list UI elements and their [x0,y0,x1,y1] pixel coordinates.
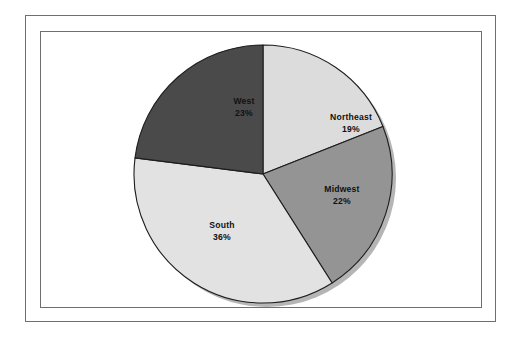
pie-chart-area: Northeast19%Midwest22%South36%West23% [41,32,481,307]
pie-label-name: South [209,220,234,230]
pie-slices-group [134,45,392,303]
pie-chart-svg: Northeast19%Midwest22%South36%West23% [41,32,481,307]
pie-label-name: West [233,96,254,106]
pie-label-south: South36% [209,220,234,242]
pie-label-percent: 19% [342,124,360,134]
pie-label-percent: 22% [333,196,351,206]
figure-page: Northeast19%Midwest22%South36%West23% [0,0,519,338]
pie-label-name: Northeast [330,112,372,122]
pie-label-west: West23% [233,96,254,118]
pie-label-percent: 23% [235,108,253,118]
pie-label-name: Midwest [324,184,359,194]
pie-label-percent: 36% [213,232,231,242]
